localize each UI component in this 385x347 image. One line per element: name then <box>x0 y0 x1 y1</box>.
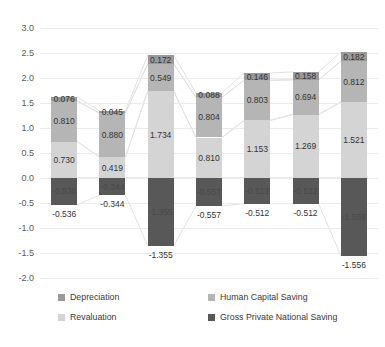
bar-group[interactable]: 1.2690.6940.158-0.512 <box>293 28 319 278</box>
legend-label: Human Capital Saving <box>220 292 308 302</box>
segment-depreciation[interactable]: 0.172 <box>148 55 174 64</box>
y-axis-tick-label: 0.5 <box>0 148 34 158</box>
segment-gross-private-national-saving[interactable]: -1.556 <box>341 178 367 256</box>
bar-group[interactable]: 1.1530.8030.146-0.512 <box>244 28 270 278</box>
segment-value-label: 1.734 <box>148 130 174 139</box>
bar-group[interactable]: 1.7340.5490.172-1.355 <box>148 28 174 278</box>
bar-group[interactable]: 0.7300.8100.076-0.536 <box>51 28 77 278</box>
connector-line <box>77 142 99 158</box>
y-axis-tick-label: 3.0 <box>0 23 34 33</box>
segment-value-label: 1.153 <box>244 145 270 154</box>
segment-gross-private-national-saving[interactable]: -0.512 <box>293 178 319 204</box>
segment-value-label: 0.810 <box>51 117 77 126</box>
legend-swatch-icon <box>58 294 65 301</box>
bar-value-callout: -0.512 <box>244 208 270 218</box>
connector-line <box>174 91 196 137</box>
segment-revaluation[interactable]: 1.153 <box>244 120 270 178</box>
y-axis-tick-label: 2.5 <box>0 48 34 58</box>
segment-human-capital-saving[interactable]: 0.549 <box>148 64 174 91</box>
segment-value-label: 0.730 <box>51 156 77 165</box>
gridline <box>40 278 378 279</box>
segment-human-capital-saving[interactable]: 0.694 <box>293 80 319 115</box>
segment-human-capital-saving[interactable]: 0.810 <box>51 101 77 142</box>
segment-value-label: 0.810 <box>196 154 222 163</box>
segment-value-label: -0.536 <box>51 187 77 196</box>
legend-item[interactable]: Revaluation <box>58 312 208 322</box>
segment-revaluation[interactable]: 1.269 <box>293 115 319 178</box>
segment-depreciation[interactable]: 0.076 <box>51 97 77 101</box>
segment-value-label: -0.512 <box>244 187 270 196</box>
legend-label: Gross Private National Saving <box>220 312 337 322</box>
segment-revaluation[interactable]: 1.521 <box>341 102 367 178</box>
segment-depreciation[interactable]: 0.088 <box>196 93 222 97</box>
segment-human-capital-saving[interactable]: 0.812 <box>341 61 367 102</box>
connector-line <box>125 91 147 157</box>
connector-line <box>125 64 147 113</box>
segment-gross-private-national-saving[interactable]: -0.557 <box>196 178 222 206</box>
connector-line <box>77 142 99 158</box>
segment-value-label: 0.804 <box>196 113 222 122</box>
legend-label: Revaluation <box>70 312 116 322</box>
y-axis-tick-label: -1.5 <box>0 248 34 258</box>
segment-human-capital-saving[interactable]: 0.804 <box>196 97 222 137</box>
segment-value-label: 1.521 <box>341 136 367 145</box>
y-axis-tick-label: 1.5 <box>0 98 34 108</box>
segment-value-label: 0.045 <box>99 108 125 117</box>
connector-line <box>319 52 341 72</box>
segment-depreciation[interactable]: 0.182 <box>341 52 367 61</box>
connector-line <box>319 204 341 256</box>
segment-revaluation[interactable]: 0.730 <box>51 142 77 179</box>
stacked-bar-chart: 0.7300.8100.076-0.536-0.5360.4190.8800.0… <box>0 0 385 347</box>
legend-swatch-icon <box>58 314 65 321</box>
segment-depreciation[interactable]: 0.146 <box>244 73 270 80</box>
connector-line <box>222 80 244 97</box>
segment-value-label: 0.158 <box>293 72 319 81</box>
segment-value-label: 0.076 <box>51 95 77 104</box>
connector-line <box>222 73 244 93</box>
segment-value-label: 0.549 <box>148 73 174 82</box>
legend-item[interactable]: Depreciation <box>58 292 208 302</box>
segment-value-label: -1.556 <box>341 213 367 222</box>
segment-value-label: 0.182 <box>341 53 367 62</box>
bar-group[interactable]: 0.8100.8040.088-0.557 <box>196 28 222 278</box>
segment-value-label: 0.694 <box>293 93 319 102</box>
segment-value-label: -0.557 <box>196 188 222 197</box>
segment-depreciation[interactable]: 0.158 <box>293 72 319 80</box>
bar-group[interactable]: 1.5210.8120.182-1.556 <box>341 28 367 278</box>
segment-revaluation[interactable]: 1.734 <box>148 91 174 178</box>
y-axis-tick-label: 1.0 <box>0 123 34 133</box>
connector-line <box>125 91 147 157</box>
legend-item[interactable]: Human Capital Saving <box>208 292 358 302</box>
segment-value-label: 0.812 <box>341 77 367 86</box>
legend-swatch-icon <box>208 294 215 301</box>
y-axis-tick-label: -0.5 <box>0 198 34 208</box>
connector-line <box>174 64 196 97</box>
chart-legend: DepreciationHuman Capital SavingRevaluat… <box>58 292 358 322</box>
segment-value-label: 0.088 <box>196 91 222 100</box>
connector-line <box>174 55 196 93</box>
segment-gross-private-national-saving[interactable]: -0.536 <box>51 178 77 205</box>
segment-human-capital-saving[interactable]: 0.803 <box>244 80 270 120</box>
bar-value-callout: -0.557 <box>196 210 222 220</box>
y-axis-tick-label: 0.0 <box>0 173 34 183</box>
legend-item[interactable]: Gross Private National Saving <box>208 312 358 322</box>
bar-value-callout: -1.556 <box>341 260 367 270</box>
segment-value-label: 1.269 <box>293 142 319 151</box>
segment-value-label: 0.803 <box>244 96 270 105</box>
segment-gross-private-national-saving[interactable]: -1.355 <box>148 178 174 246</box>
segment-depreciation[interactable]: 0.045 <box>99 111 125 113</box>
segment-value-label: -0.512 <box>293 187 319 196</box>
segment-human-capital-saving[interactable]: 0.880 <box>99 113 125 157</box>
segment-value-label: -0.344 <box>99 182 125 191</box>
segment-value-label: -1.355 <box>148 208 174 217</box>
connector-line <box>270 115 292 121</box>
segment-revaluation[interactable]: 0.419 <box>99 157 125 178</box>
segment-gross-private-national-saving[interactable]: -0.512 <box>244 178 270 204</box>
plot-area: 0.7300.8100.076-0.536-0.5360.4190.8800.0… <box>40 28 378 278</box>
y-axis-tick-label: -1.0 <box>0 223 34 233</box>
y-axis-tick-label: 2.0 <box>0 73 34 83</box>
y-axis-tick-label: -2.0 <box>0 273 34 283</box>
segment-gross-private-national-saving[interactable]: -0.344 <box>99 178 125 195</box>
segment-revaluation[interactable]: 0.810 <box>196 138 222 179</box>
bar-group[interactable]: 0.4190.8800.045-0.344 <box>99 28 125 278</box>
